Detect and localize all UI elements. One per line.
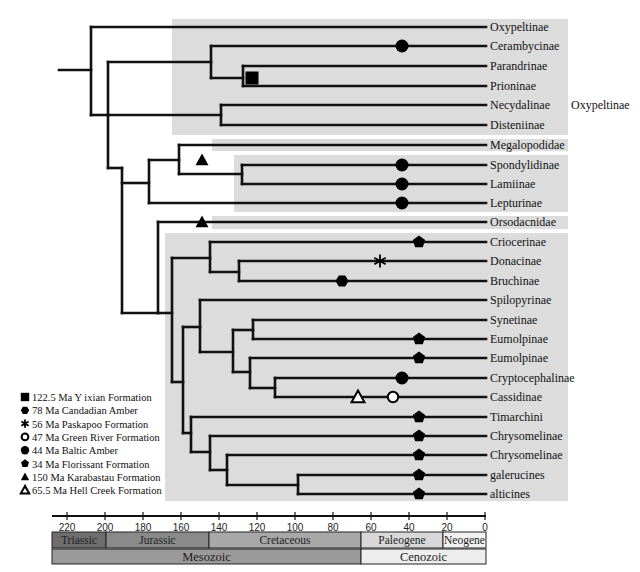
- period-label: Triassic: [61, 534, 97, 546]
- axis-tick-label: 80: [327, 522, 339, 533]
- axis-tick-label: 180: [135, 522, 152, 533]
- taxon-label: Cerambycinae: [490, 39, 559, 53]
- axis-tick-label: 120: [249, 522, 266, 533]
- legend-item: 150 Ma Karabastau Formation: [21, 472, 162, 483]
- circle-icon: [396, 372, 409, 385]
- taxon-label: Lepturinae: [490, 196, 542, 210]
- taxon-label: Cryptocephalinae: [490, 371, 575, 385]
- taxon-label: Megalopodidae: [490, 138, 565, 152]
- taxon-label: Criocerinae: [490, 235, 546, 249]
- circle-icon: [21, 446, 29, 454]
- legend-item: 47 Ma Green River Formation: [22, 432, 161, 443]
- legend-label: 34 Ma Florissant Formation: [32, 459, 150, 470]
- time-axis: 220200180160140120100806040200: [52, 512, 488, 533]
- axis-tick-label: 20: [441, 522, 453, 533]
- legend-label: 56 Ma Paskapoo Formation: [32, 419, 149, 430]
- taxon-label: Timarchini: [490, 410, 544, 424]
- taxon-label: galerucines: [490, 468, 545, 482]
- triangle-open-icon: [21, 486, 29, 494]
- taxon-label: alticines: [490, 487, 530, 501]
- asterisk-icon: [21, 419, 28, 427]
- circle-open-icon: [22, 434, 29, 441]
- axis-tick-label: 60: [365, 522, 377, 533]
- pentagon-icon: [21, 459, 29, 467]
- triangle-icon: [196, 154, 209, 166]
- taxon-label: Donacinae: [490, 254, 541, 268]
- hexagon-icon: [21, 407, 29, 414]
- axis-tick-label: 0: [482, 522, 488, 533]
- taxon-label: Prioninae: [490, 79, 536, 93]
- taxon-label: Bruchinae: [490, 274, 539, 288]
- taxon-label: Synetinae: [490, 313, 537, 327]
- legend-item: 65.5 Ma Hell Creek Formation: [21, 485, 163, 496]
- period-label: Cretaceous: [259, 534, 311, 546]
- axis-tick-label: 100: [287, 522, 304, 533]
- taxon-label: Spondylidinae: [490, 158, 559, 172]
- axis-tick-label: 160: [173, 522, 190, 533]
- triangle-icon: [21, 473, 29, 481]
- taxon-label: Necydalinae: [490, 98, 550, 112]
- taxon-label: Parandrinae: [490, 59, 547, 73]
- legend-label: 65.5 Ma Hell Creek Formation: [32, 485, 163, 496]
- taxon-label: Eumolpinae: [490, 332, 548, 346]
- period-label: Paleogene: [378, 534, 425, 547]
- period-label: Jurassic: [139, 534, 175, 546]
- taxon-label: Eumolpinae: [490, 351, 548, 365]
- taxon-label: Disteniinae: [490, 118, 545, 132]
- circle-icon: [396, 197, 409, 210]
- legend-item: 122.5 Ma Y ixian Formation: [21, 392, 153, 403]
- legend-label: 44 Ma Baltic Amber: [32, 445, 119, 456]
- taxon-label: Oxypeltinae: [490, 20, 549, 34]
- era-label: Mesozoic: [182, 550, 231, 564]
- legend-label: 47 Ma Green River Formation: [32, 432, 160, 443]
- period-label: Neogene: [444, 534, 485, 547]
- square-icon: [246, 72, 259, 85]
- legend-label: 150 Ma Karabastau Formation: [32, 472, 161, 483]
- circle-icon: [396, 159, 409, 172]
- legend-label: 122.5 Ma Y ixian Formation: [32, 392, 152, 403]
- taxon-label: Spilopyrinae: [490, 293, 551, 307]
- group-label-oxypeltinae: Oxypeltinae: [571, 98, 630, 112]
- era-label: Cenozoic: [400, 550, 448, 564]
- taxon-label: Chrysomelinae: [490, 448, 563, 462]
- circle-icon: [396, 40, 409, 53]
- phylogeny-figure: OxypeltinaeCerambycinaeParandrinaePrioni…: [0, 0, 640, 572]
- legend: 122.5 Ma Y ixian Formation78 Ma Candadia…: [21, 392, 163, 496]
- legend-label: 78 Ma Candadian Amber: [32, 405, 138, 416]
- taxon-label: Cassidinae: [490, 390, 542, 404]
- legend-item: 44 Ma Baltic Amber: [21, 445, 119, 456]
- circle-icon: [396, 178, 409, 191]
- axis-tick-label: 40: [403, 522, 415, 533]
- taxon-label: Lamiinae: [490, 177, 535, 191]
- legend-item: 56 Ma Paskapoo Formation: [21, 419, 149, 430]
- axis-tick-label: 140: [211, 522, 228, 533]
- taxon-label: Orsodacnidae: [490, 215, 556, 229]
- square-icon: [21, 393, 29, 401]
- axis-tick-label: 200: [97, 522, 114, 533]
- legend-item: 78 Ma Candadian Amber: [21, 405, 139, 416]
- geologic-timescale: TriassicJurassicCretaceousPaleogeneNeoge…: [52, 532, 486, 564]
- axis-tick-label: 220: [59, 522, 76, 533]
- circle-open-icon: [388, 392, 398, 402]
- taxon-label: Chrysomelinae: [490, 429, 563, 443]
- legend-item: 34 Ma Florissant Formation: [21, 459, 150, 470]
- phylogeny-svg: OxypeltinaeCerambycinaeParandrinaePrioni…: [0, 0, 640, 572]
